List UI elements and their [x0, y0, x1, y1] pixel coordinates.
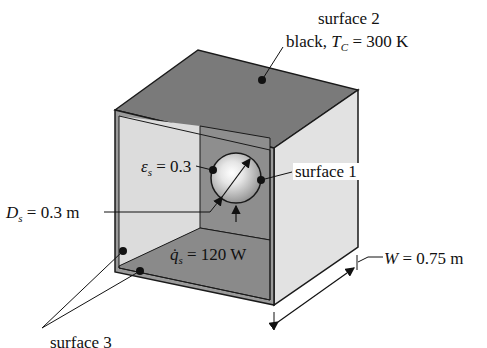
diameter-subscript: s — [18, 212, 22, 224]
emissivity-subscript: s — [148, 166, 152, 178]
surface-2-black-text: black, — [286, 32, 331, 51]
surface-3-label: surface 3 — [50, 334, 112, 348]
temperature-symbol: T — [331, 32, 340, 51]
diameter-value: = 0.3 m — [23, 203, 80, 222]
surface-2-dot — [258, 76, 266, 84]
enclosure-diagram — [0, 0, 487, 348]
width-value: = 0.75 m — [398, 249, 463, 268]
temperature-subscript: C — [341, 41, 348, 53]
diameter-label: Ds = 0.3 m — [6, 204, 79, 221]
temperature-value: = 300 K — [348, 32, 408, 51]
emissivity-dot — [209, 166, 217, 174]
surface-2-text: surface 2 — [318, 9, 380, 28]
heat-rate-label: q̇s = 120 W — [170, 246, 246, 263]
surface-3-dot-wall — [119, 247, 127, 255]
surface-1-dot — [257, 176, 265, 184]
width-symbol: W — [384, 249, 398, 268]
diameter-symbol: D — [6, 203, 18, 222]
surface-1-text: surface 1 — [295, 162, 357, 181]
heat-rate-subscript: s — [179, 254, 183, 266]
emissivity-symbol: ε — [141, 157, 148, 176]
surface-2-label-line2: black, TC = 300 K — [286, 33, 408, 50]
heat-rate-value: = 120 W — [183, 245, 247, 264]
surface-3-dot-floor — [136, 267, 144, 275]
surface-2-label-line1: surface 2 — [318, 10, 380, 27]
emissivity-value: = 0.3 — [152, 157, 191, 176]
surface-1-label: surface 1 — [293, 163, 359, 180]
heat-rate-symbol: q̇ — [170, 245, 179, 264]
surface-3-text: surface 3 — [50, 333, 112, 348]
emissivity-label: εs = 0.3 — [141, 158, 191, 175]
width-label: W = 0.75 m — [384, 250, 463, 267]
